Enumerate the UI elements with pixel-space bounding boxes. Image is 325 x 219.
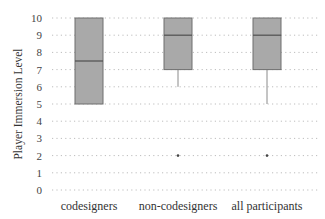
iqr-box xyxy=(164,18,192,70)
y-tick-label: 4 xyxy=(37,115,43,127)
y-tick-label: 0 xyxy=(37,184,43,196)
y-tick-label: 1 xyxy=(37,167,43,179)
y-tick-label: 7 xyxy=(37,64,43,76)
outlier-point xyxy=(177,154,180,157)
box-codesigners xyxy=(75,18,103,104)
x-category-label: non-codesigners xyxy=(139,199,218,213)
x-category-label: all participants xyxy=(232,199,303,213)
box-all-participants xyxy=(253,18,281,157)
y-tick-label: 6 xyxy=(37,81,43,93)
x-category-label: codesigners xyxy=(61,199,118,213)
x-axis-labels: codesignersnon-codesignersall participan… xyxy=(61,199,303,213)
y-axis-ticks: 012345678910 xyxy=(31,12,43,196)
iqr-box xyxy=(253,18,281,70)
outlier-point xyxy=(266,154,269,157)
y-tick-label: 2 xyxy=(37,150,43,162)
y-tick-label: 5 xyxy=(37,98,43,110)
y-tick-label: 3 xyxy=(37,132,43,144)
y-tick-label: 8 xyxy=(37,46,43,58)
y-tick-label: 10 xyxy=(31,12,43,24)
y-axis-label: Player Immersion Level xyxy=(12,48,25,159)
boxes xyxy=(75,18,281,157)
y-tick-label: 9 xyxy=(37,29,43,41)
box-plot-chart: 012345678910 Player Immersion Level code… xyxy=(0,0,325,219)
box-non-codesigners xyxy=(164,18,192,157)
